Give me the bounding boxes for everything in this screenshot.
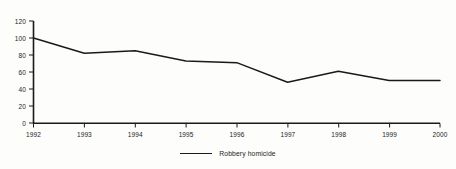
x-axis-tick-label: 1998 <box>331 131 346 138</box>
x-axis-tick-label: 1997 <box>280 131 295 138</box>
x-axis-tick-label: 1994 <box>128 131 143 138</box>
line-chart: 120 100 80 60 40 20 0 1992 1993 1994 199… <box>0 0 456 169</box>
x-axis-tick-label: 1996 <box>230 131 245 138</box>
axis-lines <box>33 21 440 124</box>
x-axis-tick-label: 1992 <box>26 131 41 138</box>
y-axis-tick-label: 100 <box>6 35 26 42</box>
chart-legend: Robbery homicide <box>0 150 456 157</box>
x-axis-tick-label: 2000 <box>433 131 448 138</box>
y-axis-tick-label: 0 <box>6 120 26 127</box>
y-axis-tick-label: 20 <box>6 103 26 110</box>
y-axis-tick-label: 60 <box>6 69 26 76</box>
x-axis-tick-label: 1993 <box>77 131 92 138</box>
y-axis-tick-label: 120 <box>6 18 26 25</box>
legend-line-swatch <box>180 153 212 154</box>
series-line-robbery-homicide <box>34 38 441 82</box>
x-axis-tick-label: 1995 <box>179 131 194 138</box>
x-axis-tick-label: 1999 <box>382 131 397 138</box>
y-axis-tick-label: 40 <box>6 86 26 93</box>
legend-entry-label: Robbery homicide <box>219 150 275 157</box>
plot-area <box>0 0 456 169</box>
y-axis-tick-label: 80 <box>6 52 26 59</box>
